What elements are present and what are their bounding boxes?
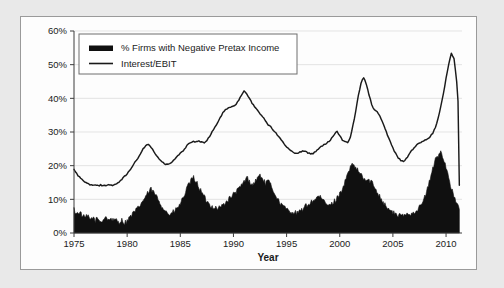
legend-marker-negative-pretax-income bbox=[89, 46, 113, 52]
data-area-negative-pretax-income bbox=[74, 151, 459, 233]
page-background: 0%10%20%30%40%50%60% 1975198019851990199… bbox=[0, 0, 504, 288]
x-tick-label: 1980 bbox=[117, 238, 138, 249]
interest-ebit-negative-income-chart: 0%10%20%30%40%50%60% 1975198019851990199… bbox=[21, 17, 476, 269]
y-tick-label: 60% bbox=[48, 25, 68, 36]
x-tick-label: 1995 bbox=[276, 238, 297, 249]
x-axis-title: Year bbox=[257, 252, 278, 263]
y-axis: 0%10%20%30%40%50%60% bbox=[48, 25, 74, 238]
x-tick-label: 2005 bbox=[382, 238, 403, 249]
y-tick-label: 20% bbox=[48, 160, 68, 171]
legend-box bbox=[79, 34, 297, 74]
x-tick-label: 2010 bbox=[435, 238, 456, 249]
x-tick-label: 1985 bbox=[170, 238, 191, 249]
y-tick-label: 10% bbox=[48, 194, 68, 205]
y-tick-label: 30% bbox=[48, 126, 68, 137]
legend: % Firms with Negative Pretax Income Inte… bbox=[79, 34, 297, 74]
legend-label-negative-pretax-income: % Firms with Negative Pretax Income bbox=[121, 42, 279, 53]
figure-frame: 0%10%20%30%40%50%60% 1975198019851990199… bbox=[20, 16, 477, 270]
y-tick-label: 40% bbox=[48, 93, 68, 104]
x-tick-label: 2000 bbox=[329, 238, 350, 249]
y-tick-label: 0% bbox=[53, 227, 67, 238]
x-tick-label: 1975 bbox=[63, 238, 84, 249]
x-tick-label: 1990 bbox=[223, 238, 244, 249]
x-axis: 19751980198519901995200020052010 bbox=[63, 233, 462, 249]
legend-label-interest-ebit: Interest/EBIT bbox=[121, 58, 177, 69]
y-tick-label: 50% bbox=[48, 59, 68, 70]
